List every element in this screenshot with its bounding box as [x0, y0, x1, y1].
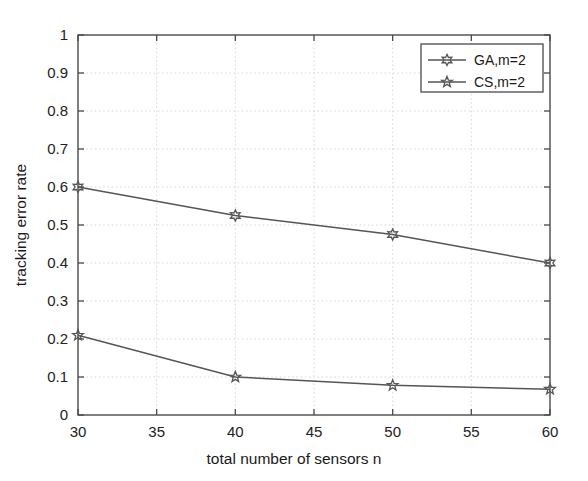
x-tick-label: 45 [306, 423, 323, 440]
y-tick-label: 0.1 [47, 368, 68, 385]
x-tick-label: 55 [463, 423, 480, 440]
y-axis-tick-labels: 00.10.20.30.40.50.60.70.80.91 [47, 26, 68, 423]
y-tick-label: 0.3 [47, 292, 68, 309]
legend-label: GA,m=2 [474, 52, 526, 68]
y-tick-label: 0.5 [47, 216, 68, 233]
x-tick-label: 50 [384, 423, 401, 440]
y-tick-label: 0 [60, 406, 68, 423]
y-tick-label: 0.9 [47, 64, 68, 81]
y-axis-title: tracking error rate [12, 164, 29, 286]
x-tick-label: 40 [227, 423, 244, 440]
y-tick-label: 0.2 [47, 330, 68, 347]
figure-canvas: 00.10.20.30.40.50.60.70.80.91 3035404550… [0, 0, 588, 481]
x-axis-tick-labels: 30354045505560 [70, 423, 559, 440]
x-tick-label: 35 [148, 423, 165, 440]
x-tick-label: 60 [542, 423, 559, 440]
y-tick-label: 0.4 [47, 254, 68, 271]
line-chart: 00.10.20.30.40.50.60.70.80.91 3035404550… [0, 0, 588, 481]
x-tick-label: 30 [70, 423, 87, 440]
legend-label: CS,m=2 [474, 74, 525, 90]
y-tick-label: 1 [60, 26, 68, 43]
legend[interactable]: GA,m=2CS,m=2 [421, 44, 543, 92]
x-axis-title: total number of sensors n [207, 450, 382, 467]
y-tick-label: 0.8 [47, 102, 68, 119]
y-tick-label: 0.6 [47, 178, 68, 195]
y-tick-label: 0.7 [47, 140, 68, 157]
